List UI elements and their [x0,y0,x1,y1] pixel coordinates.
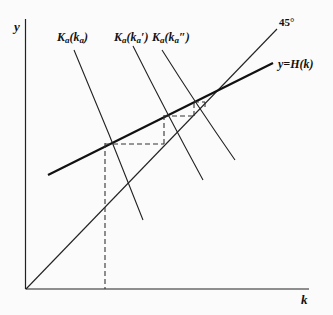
ka-1-arg: (k [70,30,80,44]
diagram-figure: y k 45° y=H(k) Ka(ka) Ka(ka′) Ka(ka″) [0,0,333,315]
diagonal-45-line [26,29,277,289]
ka-2-arg: (k [127,30,137,44]
ka-curve-3-label: Ka(ka″) [152,31,190,45]
ka-curve-1 [74,50,143,220]
ka-3-arg: (k [165,30,175,44]
ka-curve-2-label: Ka(ka′) [114,31,148,45]
y-axis-label: y [14,20,20,33]
h-curve-label: y=H(k) [278,58,314,70]
ka-3-main: K [152,30,160,44]
ka-3-close: ) [186,30,190,44]
h-curve-label-text: y=H(k) [278,57,314,71]
ka-2-main: K [114,30,122,44]
ka-3-prime: ″ [179,30,186,44]
h-curve [48,63,273,175]
x-axis-label: k [301,293,308,306]
diagonal-45-label: 45° [279,17,294,28]
ka-curve-3 [162,50,235,160]
ka-curve-1-label: Ka(ka) [57,31,88,45]
ka-1-main: K [57,30,65,44]
dashed-steps [105,102,205,289]
ka-curve-2 [133,46,203,180]
ka-2-close: ) [144,30,148,44]
diagram-canvas [0,0,333,315]
ka-1-close: ) [84,30,88,44]
